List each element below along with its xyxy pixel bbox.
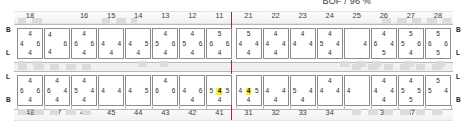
tier-marker-lower-right-b: B xyxy=(456,97,461,104)
bay-cell[interactable]: 444 xyxy=(263,75,289,106)
bay-cell[interactable]: 464 xyxy=(179,75,205,106)
cell-value: 5 xyxy=(226,88,230,95)
cell-value: 4 xyxy=(266,41,270,48)
cell-value: 4 xyxy=(82,97,86,104)
bay-cell[interactable]: 4645 xyxy=(371,28,397,59)
cell-value: 6 xyxy=(209,41,213,48)
ruler-top-label: 16 xyxy=(80,11,88,20)
bay-cell[interactable]: 444 xyxy=(98,28,124,59)
bay-plan-stage: BOF / 96 % 18161514131211212223242526272… xyxy=(0,0,467,127)
tick-mark xyxy=(290,105,291,109)
cell-value: 4 xyxy=(301,97,305,104)
bay-cell[interactable]: 5444 xyxy=(236,28,262,59)
cell-value: 4 xyxy=(164,78,168,85)
hatch-marker xyxy=(82,64,91,70)
bay-cell[interactable]: 4444 xyxy=(263,28,289,59)
bay-cell[interactable]: 5564 xyxy=(398,28,424,59)
cell-value: 4 xyxy=(274,50,278,57)
cell-value: 6 xyxy=(91,41,95,48)
hatch-marker xyxy=(32,18,42,24)
cell-value: 4 xyxy=(164,50,168,57)
cell-value: 4 xyxy=(239,88,243,95)
cell-value: 6 xyxy=(172,41,176,48)
bay-cell[interactable]: 4464 xyxy=(17,28,43,59)
cell-value-highlighted: 4 xyxy=(217,88,223,95)
tier-marker-lower-left-b: B xyxy=(6,97,11,104)
hatch-marker xyxy=(352,64,361,70)
bay-cell[interactable]: 4564 xyxy=(152,28,178,59)
cell-value: 4 xyxy=(28,78,32,85)
cell-value: 6 xyxy=(20,88,24,95)
cell-value: 4 xyxy=(82,78,86,85)
hatch-marker xyxy=(352,109,361,115)
tick-mark xyxy=(152,105,153,109)
lower-deck-row[interactable]: 4664464445444445466464545444544445444444… xyxy=(14,71,453,110)
bay-cell[interactable]: 466 xyxy=(152,75,178,106)
hatch-marker xyxy=(131,18,137,24)
tier-marker-upper-right-b: B xyxy=(456,27,461,34)
bay-cell[interactable]: 4 xyxy=(344,75,370,106)
cell-value: 6 xyxy=(74,41,78,48)
hatch-marker xyxy=(442,18,451,24)
cell-value: 5 xyxy=(255,88,259,95)
bay-cell[interactable]: 464 xyxy=(44,28,70,59)
tick-mark xyxy=(263,105,264,109)
cell-value: 6 xyxy=(155,88,159,95)
hatch-marker xyxy=(50,64,59,70)
bay-cell[interactable]: 4544 xyxy=(317,28,343,59)
bay-cell[interactable]: 4644 xyxy=(44,75,70,106)
bay-cell[interactable]: 4454 xyxy=(236,75,262,106)
bay-cell[interactable]: 544 xyxy=(290,75,316,106)
bay-cell[interactable]: 4544 xyxy=(71,75,97,106)
cell-value: 4 xyxy=(320,88,324,95)
cell-value: 4 xyxy=(48,49,52,56)
cell-value: 6 xyxy=(226,41,230,48)
cell-value: 5 xyxy=(382,50,386,57)
bay-cell[interactable]: 554 xyxy=(425,75,451,106)
cell-value: 5 xyxy=(401,41,405,48)
hatch-marker xyxy=(427,18,437,24)
centreline-divider-top xyxy=(231,12,232,28)
tick-mark xyxy=(236,105,237,109)
bay-cell[interactable]: 5664 xyxy=(206,28,232,59)
hatch-marker xyxy=(384,109,393,115)
tier-marker-upper-right-l: L xyxy=(456,50,460,57)
ruler-top-label: 22 xyxy=(271,11,279,20)
bay-cell[interactable]: 44 xyxy=(98,75,124,106)
cell-value: 5 xyxy=(417,88,421,95)
bay-cell[interactable]: 4444 xyxy=(371,75,397,106)
cell-value: 4 xyxy=(91,88,95,95)
bay-cell[interactable]: 5665 xyxy=(425,28,451,59)
bay-cell[interactable]: 454 xyxy=(125,28,151,59)
cell-value: 4 xyxy=(55,97,59,104)
bay-cell[interactable]: 5454 xyxy=(206,75,232,106)
bay-cell[interactable]: 444 xyxy=(290,28,316,59)
cell-value: 4 xyxy=(239,41,243,48)
hatch-marker xyxy=(116,18,126,24)
cell-value: 4 xyxy=(128,41,132,48)
cell-value: 4 xyxy=(28,97,32,104)
hatch-marker xyxy=(66,64,76,70)
bay-cell[interactable]: 4664 xyxy=(71,28,97,59)
upper-deck-row[interactable]: 4464464466444445445644564566454444444444… xyxy=(14,24,453,63)
hatch-marker xyxy=(400,109,410,115)
bay-cell[interactable]: 444 xyxy=(317,75,343,106)
ruler-top-label: 23 xyxy=(298,11,306,20)
tier-marker-lower-right-l: L xyxy=(456,74,460,81)
cell-value: 5 xyxy=(209,88,213,95)
cell-value-highlighted: 4 xyxy=(246,88,252,95)
cell-value: 4 xyxy=(182,88,186,95)
bay-cell[interactable]: 45 xyxy=(125,75,151,106)
bay-cell[interactable]: 4 xyxy=(344,28,370,59)
cell-value: 5 xyxy=(320,41,324,48)
tick-mark xyxy=(71,105,72,109)
cell-value: 6 xyxy=(63,41,67,48)
bay-cell[interactable]: 4664 xyxy=(17,75,43,106)
bay-cell[interactable]: 4555 xyxy=(398,75,424,106)
hatch-marker xyxy=(18,64,27,70)
hatch-marker xyxy=(50,109,59,115)
bay-cell[interactable]: 4564 xyxy=(179,28,205,59)
cell-value: 4 xyxy=(293,41,297,48)
cell-value: 4 xyxy=(274,31,278,38)
cell-value: 4 xyxy=(266,88,270,95)
